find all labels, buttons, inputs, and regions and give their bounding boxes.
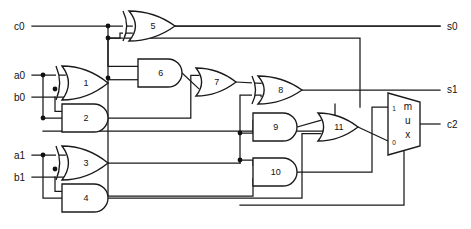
gate-2-and: 2 xyxy=(62,104,108,132)
gate-4-number: 4 xyxy=(83,193,88,203)
junction-dot-5 xyxy=(41,116,46,121)
gate-5-xor-arc xyxy=(123,11,127,41)
wire-c0-to-gate6 xyxy=(108,38,138,66)
gate-3-xor-arc xyxy=(56,146,60,180)
junction-dot-2 xyxy=(106,76,111,81)
gate-6-and: 6 xyxy=(138,59,182,87)
gate-2-number: 2 xyxy=(83,113,88,123)
input-label-a0: a0 xyxy=(14,70,26,81)
wire-gate1-to-gate10 xyxy=(108,78,253,196)
junction-dot-3 xyxy=(41,73,46,78)
gate-7-number: 7 xyxy=(214,77,219,87)
junction-dot-6 xyxy=(41,153,46,158)
gate-11-number: 11 xyxy=(334,122,343,132)
junction-dot-9 xyxy=(238,158,243,163)
gate-8-xor-arc xyxy=(252,76,256,104)
output-label-s1: s1 xyxy=(447,84,458,95)
output-mux: mux10 xyxy=(388,93,420,155)
input-label-b1: b1 xyxy=(14,172,26,183)
gate-layer: 1234567891011mux10 xyxy=(56,11,420,212)
logic-diagram-canvas: 1234567891011mux10 c0a0b0a1b1s0s1c2 xyxy=(0,0,471,229)
junction-dot-0 xyxy=(106,24,111,29)
schematic-svg: 1234567891011mux10 c0a0b0a1b1s0s1c2 xyxy=(0,0,471,229)
wire-gate10-to-mux-1 xyxy=(297,107,388,172)
mux-input-1-label: 1 xyxy=(392,105,396,112)
input-label-b0: b0 xyxy=(14,92,26,103)
wire-gate7-to-gate8 xyxy=(236,82,261,83)
mux-input-0-label: 0 xyxy=(392,139,396,146)
gate-11-or: 11 xyxy=(318,113,358,141)
gate-5-number: 5 xyxy=(150,21,155,31)
gate-8-xor: 8 xyxy=(252,76,302,104)
input-label-a1: a1 xyxy=(14,150,26,161)
gate-9-and: 9 xyxy=(253,113,297,141)
gate-1-number: 1 xyxy=(83,78,88,88)
gate-6-number: 6 xyxy=(158,68,163,78)
mux-label-char-2: x xyxy=(405,129,410,140)
input-label-c0: c0 xyxy=(14,21,25,32)
junction-dot-8 xyxy=(238,131,243,136)
gate-10-number: 10 xyxy=(271,167,281,177)
gate-4-and: 4 xyxy=(62,184,108,212)
mux-label-char-1: u xyxy=(405,115,411,126)
gate-7-or: 7 xyxy=(196,68,236,96)
gate-10-and: 10 xyxy=(253,158,297,186)
gate-3-number: 3 xyxy=(83,158,88,168)
junction-dot-7 xyxy=(53,167,58,172)
gate-3-xor: 3 xyxy=(56,146,108,180)
wire-c0-tap-gate5-lower xyxy=(108,33,132,38)
gate-1-xor-arc xyxy=(56,66,60,100)
junction-dot-1 xyxy=(106,36,111,41)
wire-gate11-to-mux-0 xyxy=(358,127,388,141)
gate-1-xor: 1 xyxy=(56,66,108,100)
gate-9-number: 9 xyxy=(273,122,278,132)
wire-gate9-to-gate11 xyxy=(297,120,321,127)
output-label-s0: s0 xyxy=(447,21,458,32)
mux-label-char-0: m xyxy=(404,101,412,112)
gate-8-number: 8 xyxy=(278,85,283,95)
junction-dot-4 xyxy=(53,87,58,92)
output-label-c2: c2 xyxy=(447,119,458,130)
